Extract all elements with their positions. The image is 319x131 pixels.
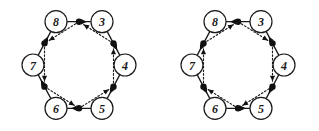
node-8[interactable]: 8	[204, 11, 226, 33]
node-5[interactable]: 5	[91, 97, 113, 119]
inner-edge-arrowhead	[84, 25, 90, 30]
node-group: 834567	[22, 11, 136, 120]
node-label-4: 4	[280, 59, 287, 73]
node-4[interactable]: 4	[114, 54, 136, 76]
node-label-3: 3	[257, 15, 264, 29]
edge-midpoint-dot	[41, 40, 47, 46]
hexagon-diagram-pair: 834567834567	[0, 0, 319, 131]
node-label-7: 7	[30, 59, 37, 73]
inner-edge-arrowhead	[68, 100, 74, 105]
inner-dotted-hexagon	[42, 24, 116, 106]
node-label-8: 8	[53, 15, 59, 29]
inner-edge-arrowhead	[201, 49, 206, 54]
right-hexagon-diagram: 834567	[181, 11, 295, 120]
inner-edge-arrowhead	[103, 90, 109, 95]
figure-root: 834567834567	[0, 0, 319, 131]
node-5[interactable]: 5	[250, 97, 272, 119]
node-6[interactable]: 6	[45, 97, 67, 119]
edge-midpoint-dot	[76, 19, 82, 25]
inner-edge-arrowhead	[49, 35, 55, 40]
node-3[interactable]: 3	[250, 11, 272, 33]
node-4[interactable]: 4	[273, 54, 295, 76]
node-label-5: 5	[258, 102, 264, 116]
inner-edge-arrowhead	[208, 90, 214, 95]
outer-edge-6-to-5	[227, 105, 250, 111]
inner-edge-arrowhead	[270, 76, 275, 81]
edge-midpoint-dot	[235, 19, 241, 25]
outer-edge-5-to-6	[68, 105, 91, 111]
inner-edge-arrowhead	[227, 25, 233, 30]
node-6[interactable]: 6	[204, 97, 226, 119]
outer-solid-edges	[197, 19, 278, 112]
inner-edge-arrowhead	[243, 100, 249, 105]
inner-edge-arrowhead	[42, 76, 47, 81]
inner-edge-arrowhead	[262, 35, 268, 40]
edge-midpoint-dot	[200, 83, 206, 89]
node-label-3: 3	[98, 15, 105, 29]
node-7[interactable]: 7	[22, 54, 44, 76]
node-label-8: 8	[212, 15, 218, 29]
inner-edge-arrowhead	[111, 49, 116, 54]
node-8[interactable]: 8	[45, 11, 67, 33]
edge-midpoint-dot	[269, 83, 275, 89]
outer-edge-3-to-8	[227, 19, 250, 25]
node-7[interactable]: 7	[181, 54, 203, 76]
edge-midpoint-dot	[76, 105, 82, 111]
outer-solid-edges	[38, 19, 119, 112]
edge-midpoint-dot	[110, 83, 116, 89]
edge-midpoint-dot	[200, 40, 206, 46]
inner-dotted-hexagon	[201, 24, 275, 106]
node-label-7: 7	[189, 59, 196, 73]
node-label-6: 6	[53, 102, 59, 116]
left-hexagon-diagram: 834567	[22, 11, 136, 120]
node-3[interactable]: 3	[91, 11, 113, 33]
edge-midpoint-dot	[110, 40, 116, 46]
node-label-5: 5	[99, 102, 105, 116]
edge-midpoint-dot	[235, 105, 241, 111]
outer-edge-8-to-3	[68, 19, 91, 25]
edge-midpoint-dot	[269, 40, 275, 46]
node-label-4: 4	[121, 59, 128, 73]
node-label-6: 6	[212, 102, 218, 116]
node-group: 834567	[181, 11, 295, 120]
edge-midpoint-dot	[41, 83, 47, 89]
